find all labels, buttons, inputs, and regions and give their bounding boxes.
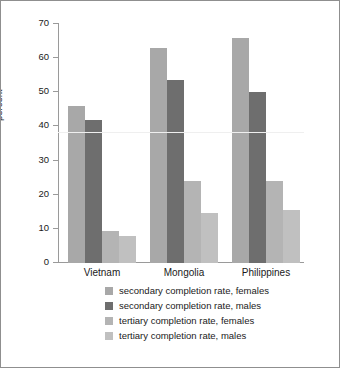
legend-label: secondary completion rate, males [119, 301, 261, 311]
legend-label: tertiary completion rate, males [119, 331, 246, 341]
bar [232, 38, 249, 263]
legend-item[interactable]: secondary completion rate, males [105, 298, 269, 313]
bar [102, 231, 119, 263]
bar [150, 48, 167, 263]
legend-item[interactable]: tertiary completion rate, males [105, 328, 269, 343]
legend-swatch-icon [105, 302, 113, 310]
y-axis-title: percent [0, 89, 4, 121]
legend-item[interactable]: tertiary completion rate, females [105, 313, 269, 328]
y-axis-tick-label: 50 [5, 86, 49, 96]
y-axis-tick-label: 0 [5, 257, 49, 267]
bar [283, 210, 300, 263]
y-axis-tick-label: 70 [5, 18, 49, 28]
legend-swatch-icon [105, 287, 113, 295]
bar [184, 181, 201, 263]
bar [85, 120, 102, 263]
y-axis-tick-label: 10 [5, 223, 49, 233]
bar [249, 92, 266, 263]
y-axis-tick-label: 40 [5, 120, 49, 130]
chart-legend: secondary completion rate, femalessecond… [105, 283, 269, 343]
legend-swatch-icon [105, 317, 113, 325]
gridline [58, 132, 304, 133]
bar [167, 80, 184, 263]
bar [201, 213, 218, 263]
y-axis-tick-label: 60 [5, 52, 49, 62]
y-axis-tick-label: 30 [5, 155, 49, 165]
bar [68, 106, 85, 263]
x-axis-tick-label: Philippines [216, 267, 316, 278]
plot-area [58, 23, 303, 263]
legend-label: secondary completion rate, females [119, 286, 269, 296]
legend-swatch-icon [105, 332, 113, 340]
bar [119, 236, 136, 263]
chart-figure: 010203040506070 percent VietnamMongoliaP… [0, 0, 340, 368]
y-axis-tick-label: 20 [5, 189, 49, 199]
legend-item[interactable]: secondary completion rate, females [105, 283, 269, 298]
legend-label: tertiary completion rate, females [119, 316, 254, 326]
bar [266, 181, 283, 263]
